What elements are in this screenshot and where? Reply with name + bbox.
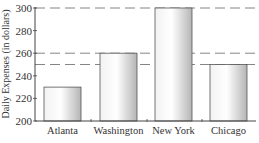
y-tick-label: 260 (16, 47, 33, 59)
bar-washington (100, 53, 137, 121)
reference-lines (35, 8, 256, 65)
y-tick-label: 220 (16, 92, 33, 104)
x-tick-label: Washington (94, 125, 145, 136)
x-tick-label: Atlanta (47, 125, 78, 136)
y-axis-label: Daily Expenses (in dollars) (0, 9, 12, 118)
bar-atlanta (44, 87, 81, 121)
x-tick-label: New York (152, 125, 195, 136)
bar-chicago (210, 65, 247, 122)
bar-chart: Daily Expenses (in dollars) 200220240260… (0, 0, 259, 143)
y-tick-label: 240 (16, 70, 33, 82)
bar-new-york (155, 8, 192, 121)
y-ticks: 200220240260280300 (16, 2, 38, 127)
y-tick-label: 200 (16, 115, 33, 127)
y-axis-title: Daily Expenses (in dollars) (0, 9, 12, 118)
x-tick-label: Chicago (211, 125, 246, 136)
y-tick-label: 300 (16, 2, 33, 14)
x-tick-labels: AtlantaWashingtonNew YorkChicago (47, 125, 246, 136)
y-tick-label: 280 (16, 25, 33, 37)
